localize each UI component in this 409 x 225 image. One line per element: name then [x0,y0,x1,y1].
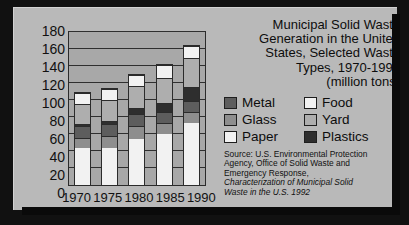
bar-segment-food [129,75,144,86]
legend-swatch-food-icon [304,97,317,109]
title-line-1: Municipal Solid Waste [214,18,400,32]
x-tick-label: 1985 [156,190,185,208]
y-axis-labels: 180160140120100806040200 [29,25,65,187]
bar-segment-glass [75,138,90,148]
source-line-5: Waste in the U.S. 1992 [224,188,402,197]
x-axis-labels: 19701975198019851990 [61,190,217,208]
bar-segment-yard [184,58,199,88]
legend-label: Metal [242,96,275,110]
legend-swatch-metal-icon [224,97,237,109]
source-note: Source: U.S. Environmental Protection Ag… [214,150,402,197]
bar-segment-metal [157,112,172,123]
bar-segment-food [184,46,199,58]
y-tick-label: 60 [29,133,65,145]
title-line-3: States, Selected Waste [214,46,400,60]
title-line-5: (million tons) [214,75,400,89]
y-tick-label: 180 [29,25,65,37]
y-tick-label: 40 [29,151,65,163]
bar-segment-plastics [157,103,172,111]
bar-segment-metal [184,101,199,113]
bar-segment-paper [184,123,199,185]
x-tick-label: 1990 [187,190,216,208]
bar-segment-plastics [184,87,199,101]
bar-segment-glass [184,112,199,123]
bar-segment-yard [75,104,90,123]
card-shadow-bottom [22,207,400,215]
legend-label: Glass [242,113,277,127]
x-tick-label: 1970 [62,190,91,208]
plot-canvas [68,31,206,186]
bar-segment-metal [102,124,117,136]
bar-segment-glass [102,136,117,148]
bar-segment-yard [129,86,144,109]
y-tick-label: 80 [29,115,65,127]
card-shadow-right [392,14,400,212]
bar-1990 [183,45,200,185]
y-tick-label: 140 [29,61,65,73]
title-line-2: Generation in the United [214,32,400,46]
legend-swatch-paper-icon [224,131,237,143]
bar-segment-food [157,65,172,78]
legend-swatch-yard-icon [304,114,317,126]
y-tick-label: 20 [29,169,65,181]
bar-segment-metal [75,126,90,138]
bar-1975 [101,88,118,185]
bar-segment-paper [129,139,144,185]
legend-label: Food [322,96,353,110]
y-tick-label: 120 [29,79,65,91]
bar-segment-yard [157,78,172,103]
legend-item-metal: Metal [224,96,304,110]
y-tick-label: 100 [29,97,65,109]
y-tick-label: 0 [29,187,65,199]
x-tick-label: 1975 [93,190,122,208]
bar-segment-glass [157,123,172,134]
chart-card: 180160140120100806040200 197019751980198… [13,7,397,210]
legend-item-food: Food [304,96,399,110]
legend-item-paper: Paper [224,130,304,144]
legend-item-glass: Glass [224,113,304,127]
chart-legend: MetalFoodGlassYardPaperPlastics [214,96,402,144]
legend-item-plastics: Plastics [304,130,399,144]
bar-group [69,32,205,185]
bar-segment-food [102,89,117,100]
y-tick-label: 160 [29,43,65,55]
legend-item-yard: Yard [304,113,399,127]
legend-label: Paper [242,130,278,144]
bar-segment-glass [129,126,144,139]
plot-area: 180160140120100806040200 197019751980198… [27,15,217,217]
bar-segment-metal [129,114,144,126]
bar-1980 [128,74,145,185]
bar-1985 [156,64,173,185]
bar-1970 [74,92,91,185]
bar-segment-yard [102,100,117,121]
bar-segment-food [75,93,90,104]
chart-title: Municipal Solid Waste Generation in the … [214,18,402,89]
bar-segment-paper [75,148,90,185]
legend-swatch-plastics-icon [304,131,317,143]
x-tick-label: 1980 [125,190,154,208]
screenshot-frame: 180160140120100806040200 197019751980198… [0,0,409,225]
legend-swatch-glass-icon [224,114,237,126]
legend-label: Yard [322,113,350,127]
title-line-4: Types, 1970-1990 [214,61,400,75]
legend-label: Plastics [322,130,369,144]
info-panel: Municipal Solid Waste Generation in the … [214,18,402,213]
bar-segment-paper [157,134,172,185]
bar-segment-paper [102,148,117,185]
